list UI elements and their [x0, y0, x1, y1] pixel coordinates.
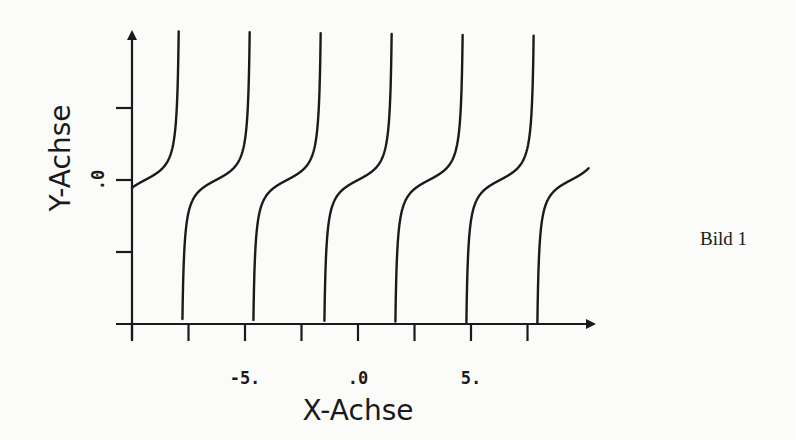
figure-caption: Bild 1	[700, 228, 747, 250]
axes	[116, 30, 596, 341]
x-axis-title: X-Achse	[303, 394, 414, 427]
tan-plot: -5..05..0 X-Achse Y-Achse	[0, 0, 796, 440]
tan-curve	[132, 31, 589, 323]
y-axis-title: Y-Achse	[44, 105, 77, 213]
x-tick-label: 5.	[461, 368, 481, 388]
x-tick-label: -5.	[230, 368, 261, 388]
x-tick-label: .0	[348, 368, 368, 388]
tick-labels: -5..05..0	[88, 170, 481, 388]
y-tick-label: .0	[88, 170, 108, 190]
